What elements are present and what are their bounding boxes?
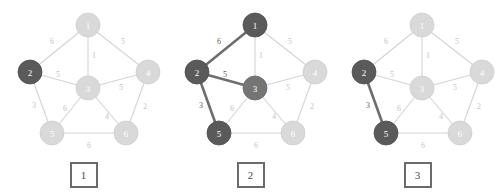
panel-2-caption-box: 2 [237,162,265,188]
graph-node-label-5: 5 [50,129,55,139]
graph-sequence-figure: 6155356426123456161553564261234562615535… [0,0,501,195]
panel-2-graph: 6155356426123456 [167,0,334,160]
edge-weight-1-3: 1 [259,51,263,60]
panel-2-graph-svg: 6155356426123456 [167,0,334,160]
panel-1-graph-svg: 6155356426123456 [0,0,167,160]
edge-weight-1-3: 1 [92,51,96,60]
graph-node-label-1: 1 [86,21,91,31]
edge-weight-2-3: 5 [223,70,227,79]
edge-weight-3-6: 4 [105,112,109,121]
panel-3-caption-box: 3 [404,162,432,188]
panel-1-caption-box: 1 [70,162,98,188]
edge-weight-2-5: 3 [366,101,370,110]
panel-2: 61553564261234562 [167,0,334,195]
edge-weight-1-2: 6 [384,37,388,46]
edge-weight-1-3: 1 [426,51,430,60]
edge-weight-5-6: 6 [421,141,425,150]
graph-node-label-3: 3 [86,84,91,94]
graph-node-label-6: 6 [124,129,129,139]
edge-weight-1-4: 5 [455,37,459,46]
edge-weight-3-5: 6 [230,104,234,113]
edge-weight-3-5: 6 [397,104,401,113]
panel-3: 61553564261234563 [334,0,501,195]
edge-weight-2-5: 3 [199,101,203,110]
panel-1-caption: 1 [0,158,167,192]
edge-weight-4-6: 2 [143,102,147,111]
panel-3-graph: 6155356426123456 [334,0,501,160]
edge-weight-1-2: 6 [217,37,221,46]
graph-node-label-6: 6 [458,129,463,139]
graph-node-label-5: 5 [217,129,222,139]
edge-weight-2-5: 3 [32,101,36,110]
edge-weight-1-4: 5 [121,37,125,46]
graph-node-label-1: 1 [420,21,425,31]
edge-weight-4-6: 2 [477,102,481,111]
edge-weight-3-4: 5 [119,83,123,92]
graph-node-label-2: 2 [362,68,367,78]
graph-node-label-3: 3 [420,84,425,94]
graph-node-label-4: 4 [313,68,318,78]
edge-weight-3-6: 4 [439,112,443,121]
edge-weight-3-5: 6 [63,104,67,113]
graph-node-label-4: 4 [146,68,151,78]
graph-node-label-5: 5 [384,129,389,139]
graph-node-label-2: 2 [195,68,200,78]
edge-weight-1-4: 5 [288,37,292,46]
edge-weight-4-6: 2 [310,102,314,111]
edge-weight-3-6: 4 [272,112,276,121]
graph-node-label-6: 6 [291,129,296,139]
panel-1-graph: 6155356426123456 [0,0,167,160]
graph-node-label-4: 4 [480,68,485,78]
graph-node-label-1: 1 [253,21,258,31]
edge-weight-2-3: 5 [390,70,394,79]
edge-weight-3-4: 5 [453,83,457,92]
graph-node-label-2: 2 [28,68,33,78]
edge-weight-1-2: 6 [50,37,54,46]
edge-weight-2-3: 5 [56,70,60,79]
edge-weight-5-6: 6 [87,141,91,150]
panel-3-graph-svg: 6155356426123456 [334,0,501,160]
panel-2-caption: 2 [167,158,334,192]
edge-weight-3-4: 5 [286,83,290,92]
graph-node-label-3: 3 [253,84,258,94]
panel-3-caption: 3 [334,158,501,192]
panel-1: 61553564261234561 [0,0,167,195]
edge-weight-5-6: 6 [254,141,258,150]
